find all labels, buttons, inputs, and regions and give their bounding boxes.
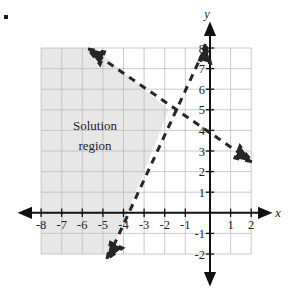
x-tick-label: -3 bbox=[139, 218, 149, 232]
y-tick-label: 8 bbox=[199, 42, 205, 56]
y-tick-label: -2 bbox=[195, 248, 205, 262]
arrow-head-down bbox=[107, 243, 123, 260]
x-tick-label: -4 bbox=[118, 218, 129, 232]
x-tick-label: -6 bbox=[77, 218, 87, 232]
x-tick-label: 1 bbox=[227, 218, 233, 232]
x-tick-label: -7 bbox=[56, 218, 66, 232]
y-tick-label: 2 bbox=[199, 165, 205, 179]
y-tick-label: 7 bbox=[199, 62, 205, 76]
x-axis-label: x bbox=[274, 206, 281, 220]
x-tick-label: -5 bbox=[98, 218, 108, 232]
solution-region-label-line2: region bbox=[78, 138, 112, 153]
solution-region-label-line1: Solution bbox=[73, 118, 118, 133]
arrow-head-right bbox=[235, 146, 252, 162]
coordinate-plane: -8 -7 -6 -5 -4 -3 -2 -1 1 2 8 7 6 5 4 3 … bbox=[0, 0, 295, 291]
y-tick-label: -1 bbox=[195, 227, 205, 241]
y-tick-label: 5 bbox=[199, 103, 205, 117]
y-tick-label: 6 bbox=[199, 83, 205, 97]
y-tick-label: 4 bbox=[199, 124, 206, 138]
bullet-marker bbox=[4, 15, 8, 19]
y-tick-label: 1 bbox=[199, 186, 205, 200]
y-tick-label: 3 bbox=[199, 145, 205, 159]
x-tick-label: 2 bbox=[248, 218, 254, 232]
y-tick-labels: 8 7 6 5 4 3 2 1 -1 -2 bbox=[195, 42, 206, 262]
y-axis-label: y bbox=[202, 7, 210, 21]
x-tick-label: -2 bbox=[159, 218, 169, 232]
x-tick-label: -8 bbox=[36, 218, 46, 232]
x-tick-label: -1 bbox=[180, 218, 190, 232]
graph-figure: -8 -7 -6 -5 -4 -3 -2 -1 1 2 8 7 6 5 4 3 … bbox=[0, 0, 295, 291]
